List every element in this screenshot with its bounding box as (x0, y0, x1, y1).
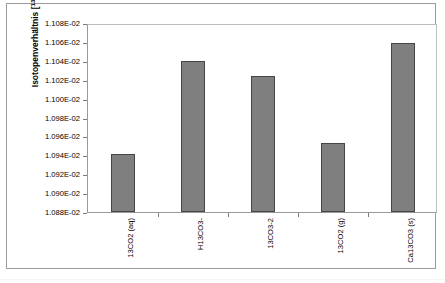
x-axis-category-label: H13CO3- (196, 218, 205, 250)
x-axis-category-label: 13CO2 (aq) (126, 218, 135, 258)
y-axis-tick-label: 1.102E-02 (45, 77, 80, 85)
x-axis-category-label: Ca13CO3 (s) (406, 218, 415, 263)
y-axis-title-text: Isotopenverhältnis [ (30, 6, 40, 87)
y-axis-tick-label: 1.090E-02 (45, 190, 80, 198)
bar (251, 76, 275, 212)
y-axis-tick-label: 1.088E-02 (45, 209, 80, 217)
y-axis-tick-label: 1.100E-02 (45, 96, 80, 104)
bar (181, 61, 205, 212)
chart-figure: Isotopenverhältnis [13C/12C] 1.108E-021.… (0, 0, 445, 283)
scan-artifact (0, 279, 445, 280)
bar (321, 143, 345, 212)
x-axis-tick-mark (368, 213, 369, 217)
y-axis-title-sup-13: 13 (30, 0, 36, 6)
bar (111, 154, 135, 212)
y-axis-tick-label: 1.106E-02 (45, 39, 80, 47)
y-axis-tick-label: 1.098E-02 (45, 115, 80, 123)
x-axis-category-label: 13CO2 (g) (336, 218, 345, 253)
x-axis-category-label: 13CO3-2 (266, 218, 275, 249)
y-axis-tick-label: 1.104E-02 (45, 58, 80, 66)
y-axis-tick-label: 1.096E-02 (45, 133, 80, 141)
bar (391, 43, 415, 212)
x-axis-tick-mark (298, 213, 299, 217)
chart-frame: Isotopenverhältnis [13C/12C] 1.108E-021.… (6, 3, 436, 269)
y-axis-title: Isotopenverhältnis [13C/12C] (30, 0, 41, 121)
x-axis-tick-mark (228, 213, 229, 217)
x-axis-tick-mark (158, 213, 159, 217)
y-axis-tick-label: 1.094E-02 (45, 152, 80, 160)
y-axis-tick-mark (83, 213, 87, 214)
y-axis-tick-label: 1.108E-02 (45, 20, 80, 28)
plot-area (87, 24, 437, 213)
y-axis-tick-label: 1.092E-02 (45, 171, 80, 179)
